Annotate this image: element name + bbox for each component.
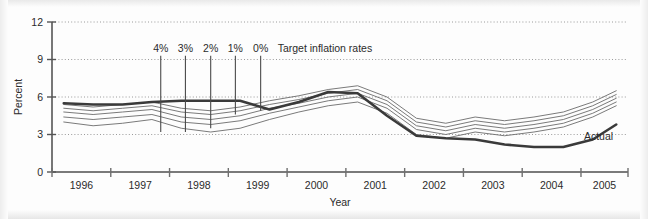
y-tick-label-3: 3 (37, 128, 43, 140)
y-tick-label-12: 12 (31, 16, 43, 28)
inflation-fan-chart: 036912 199619971998199920002001200220032… (0, 0, 648, 219)
x-tick-label-1998: 1998 (187, 179, 211, 191)
x-tick-label-1996: 1996 (70, 179, 94, 191)
series-line-actual (64, 92, 616, 147)
gridlines (52, 22, 628, 135)
target-inflation-rates-label: Target inflation rates (278, 42, 373, 54)
target-rate-label-2pct: 2% (203, 42, 218, 54)
y-tick-label-9: 9 (37, 53, 43, 65)
data-series (64, 86, 616, 147)
x-tick-label-2004: 2004 (540, 179, 564, 191)
y-axis-title: Percent (12, 79, 24, 115)
y-tick-label-6: 6 (37, 91, 43, 103)
chart-figure: 036912 199619971998199920002001200220032… (0, 0, 648, 219)
x-axis-title: Year (329, 196, 351, 208)
target-rate-label-1pct: 1% (228, 42, 243, 54)
series-line-target-0- (64, 102, 616, 138)
x-tick-label-2005: 2005 (593, 179, 617, 191)
x-tick-label-2001: 2001 (364, 179, 388, 191)
target-rate-label-4pct: 4% (153, 42, 168, 54)
y-tick-label-0: 0 (37, 166, 43, 178)
x-tick-label-2003: 2003 (481, 179, 505, 191)
x-tick-label-2002: 2002 (422, 179, 446, 191)
target-rate-label-0pct: 0% (253, 42, 268, 54)
x-tick-label-1997: 1997 (128, 179, 152, 191)
x-tick-label-2000: 2000 (305, 179, 329, 191)
target-rate-label-3pct: 3% (178, 42, 193, 54)
actual-series-label: Actual (584, 130, 613, 142)
x-tick-label-1999: 1999 (246, 179, 270, 191)
